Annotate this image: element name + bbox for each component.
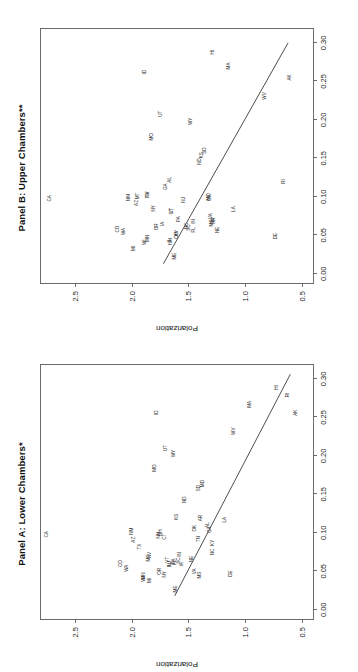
data-point-label: WV <box>263 92 268 99</box>
data-point-label: ME <box>174 586 179 593</box>
y-axis-tick <box>75 283 76 287</box>
data-point-label: DE <box>273 233 278 239</box>
data-point-label: MI <box>148 578 153 583</box>
data-point-label: AK <box>294 410 299 416</box>
y-axis-tick-label: 0.5 <box>297 291 306 301</box>
y-axis-tick <box>188 283 189 287</box>
x-axis-tick <box>313 234 317 235</box>
y-axis-tick-label: 2.5 <box>71 291 80 301</box>
y-axis-tick-label: 1.5 <box>184 291 193 301</box>
data-point-label: MT <box>136 193 141 200</box>
y-axis-tick <box>302 619 303 623</box>
data-point-label: AR <box>199 515 204 521</box>
data-point-label: GA <box>163 183 168 190</box>
x-axis-tick-label: 0.15 <box>319 487 328 502</box>
data-point-label: LA <box>222 517 227 523</box>
x-axis-tick-label: 0.25 <box>319 410 328 425</box>
plot-inner-panel-b: CACOWAMINMAZMTWIMNNVTXNYORIAMEILNHOHKYGA… <box>41 29 313 283</box>
x-axis-tick <box>313 609 317 610</box>
data-point-label: MA <box>247 401 252 408</box>
y-axis-tick-label: 2.0 <box>127 627 136 637</box>
y-axis-tick-label: 2.5 <box>71 627 80 637</box>
data-point-label: TX <box>145 192 150 198</box>
data-point-label: AZ <box>132 537 137 543</box>
figure-canvas: Panel A: Lower Chambers* Polarization CA… <box>0 0 358 672</box>
plot-area-panel-a: CACOWANMAZTXMNWIMIMTNVORMENYILNJNHOHCTPA… <box>40 364 314 620</box>
data-point-label: ND <box>183 496 188 503</box>
plot-area-panel-b: CACOWAMINMAZMTWIMNNVTXNYORIAMEILNHOHKYGA… <box>40 28 314 284</box>
data-point-label: NH <box>169 238 174 245</box>
x-axis-tick <box>313 493 317 494</box>
data-point-label: TX <box>137 544 142 550</box>
data-point-label: WY <box>188 118 193 125</box>
data-point-label: WA <box>121 228 126 235</box>
y-axis-tick <box>132 619 133 623</box>
data-point-label: AZ <box>135 200 140 206</box>
data-point-label: WA <box>125 565 130 572</box>
data-point-label: NM <box>129 528 134 535</box>
data-point-label: AL <box>168 177 173 183</box>
data-point-label: FL <box>192 227 197 232</box>
y-axis-tick <box>302 283 303 287</box>
data-point-label: UT <box>159 111 164 117</box>
data-point-label: MS <box>197 572 202 579</box>
y-axis-tick-label: 0.5 <box>297 627 306 637</box>
x-axis-tick-label: 0.10 <box>319 189 328 204</box>
x-axis-tick-label: 0.20 <box>319 449 328 464</box>
x-axis-tick <box>313 80 317 81</box>
data-point-label: LA <box>231 206 236 212</box>
data-point-label: KS <box>175 514 180 520</box>
data-point-label: CT <box>170 208 175 214</box>
data-point-label: ID <box>143 70 148 75</box>
x-axis-tick <box>313 378 317 379</box>
data-point-label: OR <box>154 223 159 230</box>
x-axis-tick <box>313 273 317 274</box>
data-point-label: MN <box>145 235 150 242</box>
data-point-label: ID <box>154 410 159 415</box>
x-axis-tick <box>313 532 317 533</box>
x-axis-tick-label: 0.25 <box>319 74 328 89</box>
x-axis-tick <box>313 416 317 417</box>
data-point-label: WV <box>231 428 236 435</box>
x-axis-tick <box>313 196 317 197</box>
panel-lower-chambers: Panel A: Lower Chambers* Polarization CA… <box>0 336 358 672</box>
data-point-label: OK <box>208 194 213 201</box>
y-axis-title-panel-b: Polarization <box>156 324 198 333</box>
data-point-label: CA <box>44 531 49 537</box>
data-point-label: ME <box>172 253 177 260</box>
panel-a-title: Panel A: Lower Chambers* <box>16 336 27 672</box>
y-axis-tick-label: 2.0 <box>127 291 136 301</box>
data-point-label: CT <box>162 534 167 540</box>
panel-b-title: Panel B: Upper Chambers** <box>16 0 27 336</box>
data-point-label: GA <box>208 526 213 533</box>
y-axis-tick <box>75 619 76 623</box>
data-point-label: RI <box>286 393 291 398</box>
data-point-label: WY <box>171 450 176 457</box>
data-point-label: KY <box>175 230 180 236</box>
x-axis-tick <box>313 455 317 456</box>
data-point-label: PA <box>177 216 182 222</box>
x-axis-tick-label: 0.05 <box>319 228 328 243</box>
y-axis-tick <box>245 619 246 623</box>
y-axis-tick <box>132 283 133 287</box>
panel-upper-chambers: Panel B: Upper Chambers** Polarization C… <box>0 0 358 336</box>
plot-inner-panel-a: CACOWANMAZTXMNWIMIMTNVORMENYILNJNHOHCTPA… <box>41 365 313 619</box>
y-axis-tick-label: 1.5 <box>184 627 193 637</box>
data-point-label: IN <box>192 219 197 224</box>
x-axis-tick <box>313 42 317 43</box>
x-axis-tick-label: 0.00 <box>319 266 328 281</box>
data-point-label: RI <box>281 179 286 184</box>
data-point-label: SD <box>203 147 208 153</box>
x-axis-tick-label: 0.10 <box>319 525 328 540</box>
x-axis-tick <box>313 119 317 120</box>
data-point-label: HI <box>274 385 279 390</box>
y-axis-tick-label: 1.0 <box>241 627 250 637</box>
x-axis-tick-label: 0.05 <box>319 564 328 579</box>
data-point-label: AK <box>288 74 293 80</box>
data-point-label: MO <box>153 464 158 471</box>
data-point-label: CA <box>48 195 53 201</box>
data-point-label: OK <box>193 525 198 532</box>
x-axis-tick-label: 0.30 <box>319 36 328 51</box>
data-point-label: DE <box>229 570 234 576</box>
y-axis-title-panel-a: Polarization <box>156 660 198 669</box>
